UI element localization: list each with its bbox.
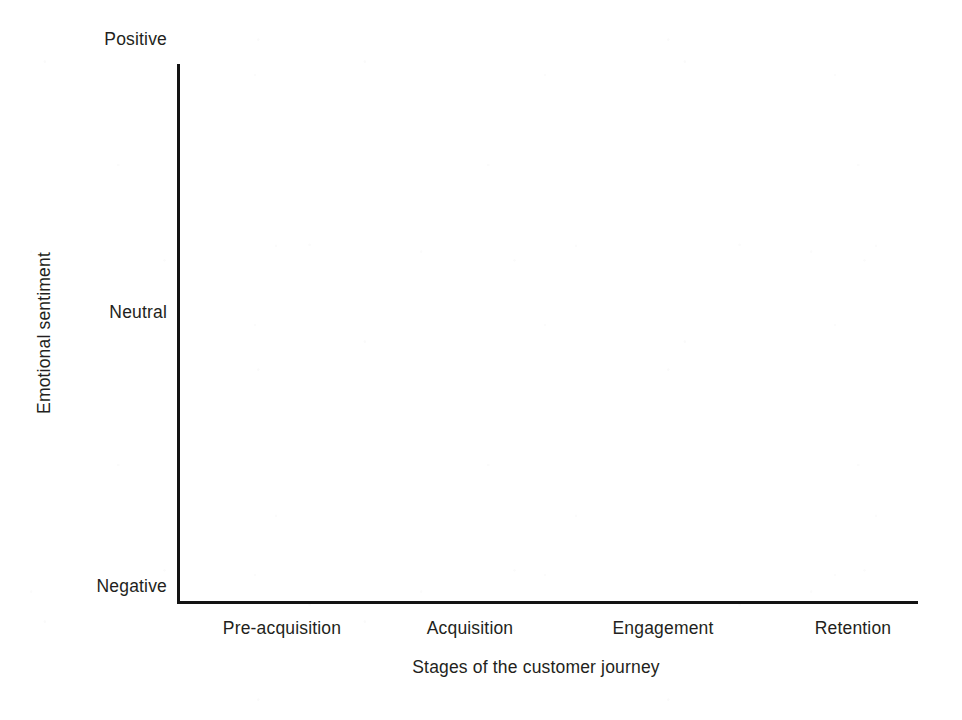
y-axis-tick-negative: Negative xyxy=(97,578,167,596)
x-axis-line xyxy=(177,601,918,604)
y-axis-tick-neutral: Neutral xyxy=(109,304,167,322)
x-axis-tick-engagement: Engagement xyxy=(613,620,714,638)
x-axis-tick-pre-acquisition: Pre-acquisition xyxy=(223,620,341,638)
y-axis-tick-positive: Positive xyxy=(104,31,167,49)
x-axis-title: Stages of the customer journey xyxy=(412,659,659,677)
y-axis-title: Emotional sentiment xyxy=(36,252,54,414)
sentiment-journey-figure: Positive Neutral Negative Pre-acquisitio… xyxy=(0,0,962,720)
plot-area xyxy=(180,64,918,601)
x-axis-tick-retention: Retention xyxy=(815,620,892,638)
x-axis-tick-acquisition: Acquisition xyxy=(427,620,514,638)
y-axis-line xyxy=(177,64,180,604)
